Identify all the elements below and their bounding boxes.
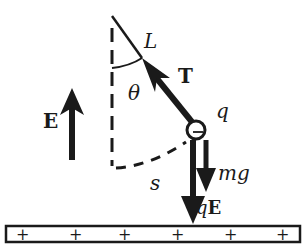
label-T: T — [178, 64, 193, 88]
pendulum-diagram: L θ T q s mg qE E + + + + + + — [0, 0, 308, 251]
arc-path-s — [116, 142, 186, 168]
plus-sign-icon: + — [224, 225, 237, 244]
plus-sign-icon: + — [171, 225, 184, 244]
label-E: E — [43, 109, 58, 133]
plus-sign-icon: + — [118, 225, 131, 244]
plus-sign-icon: + — [69, 225, 82, 244]
angle-arc — [112, 58, 142, 68]
label-L: L — [143, 29, 157, 53]
positive-plate — [6, 226, 300, 242]
label-qE: qE — [196, 197, 221, 218]
label-q: q — [216, 99, 229, 123]
label-theta: θ — [128, 81, 140, 105]
charged-bob — [187, 121, 205, 139]
pendulum-string — [112, 16, 142, 58]
plus-sign-icon: + — [16, 225, 29, 244]
label-s: s — [150, 171, 160, 195]
gravity-arrowhead — [196, 168, 216, 192]
plus-sign-icon: + — [276, 225, 289, 244]
label-mg: mg — [218, 161, 250, 185]
